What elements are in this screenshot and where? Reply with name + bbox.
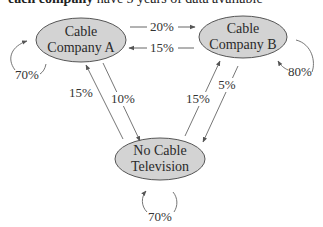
edge-a-to-b: 20% [130,19,195,34]
edge-b-to-a-label: 15% [150,40,174,55]
edge-c-to-a-label: 15% [69,85,93,100]
node-c-line2: Television [131,159,189,174]
edge-c-self-loop: 70% [142,191,177,224]
node-b-line1: Cable [227,21,260,36]
edge-a-self-label: 70% [15,67,39,82]
node-c-line1: No Cable [133,143,186,158]
transition-diagram: Cable Company A Cable Company B No Cable… [0,0,323,227]
node-cable-company-a: Cable Company A [36,18,126,62]
node-a-line1: Cable [65,24,98,39]
node-b-line2: Company B [209,37,276,52]
edge-a-to-b-label: 20% [150,19,174,34]
edge-b-to-c-label: 5% [218,77,236,92]
edge-b-self-label: 80% [288,64,312,79]
edge-a-to-c: 10% [103,63,140,141]
edge-c-self-label: 70% [148,209,172,224]
edge-c-to-b: 15% [185,61,220,136]
node-a-line2: Company A [47,40,115,55]
node-cable-company-b: Cable Company B [199,16,287,58]
edge-b-to-a: 15% [129,40,194,55]
node-no-cable-television: No Cable Television [115,138,205,180]
edge-a-to-c-label: 10% [111,91,135,106]
edge-c-to-b-label: 15% [186,91,210,106]
